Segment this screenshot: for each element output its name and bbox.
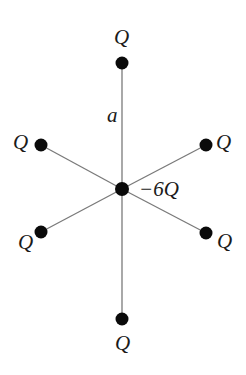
charge-dot — [116, 57, 129, 70]
distance-label-a: a — [107, 103, 118, 127]
charge-label: Q — [114, 25, 129, 49]
charge-label: Q — [18, 230, 33, 254]
charge-label: Q — [13, 130, 28, 154]
charge-upper-right: Q — [200, 130, 232, 154]
charge-dot — [200, 139, 213, 152]
charge-dot — [116, 313, 129, 326]
bond-line-lower-left — [41, 189, 122, 232]
bond-line-upper-left — [41, 145, 122, 189]
charge-label: Q — [216, 130, 231, 154]
center-charge-label: −6Q — [139, 177, 179, 201]
center-charge: −6Q — [115, 177, 179, 201]
charge-dot — [200, 227, 213, 240]
charge-lower-right: Q — [200, 227, 233, 254]
charge-dot — [35, 139, 48, 152]
charge-label: Q — [217, 229, 232, 253]
charge-lower-left: Q — [18, 226, 48, 255]
charge-diagram: QQQQQQ −6Q a — [0, 0, 246, 375]
center-charge-dot — [115, 182, 129, 196]
charge-top: Q — [114, 25, 129, 70]
charge-label: Q — [115, 331, 130, 355]
charge-dot — [35, 226, 48, 239]
charge-upper-left: Q — [13, 130, 48, 154]
charge-bottom: Q — [115, 313, 130, 356]
